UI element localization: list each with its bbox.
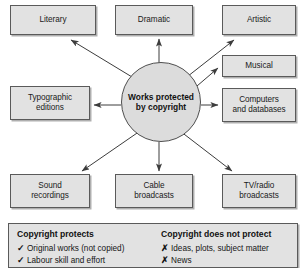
node-tv-radio-broadcasts: TV/radio broadcasts (222, 174, 296, 208)
legend-column-not-protects: Copyright does not protect ✗ Ideas, plot… (161, 229, 298, 266)
node-typographic-line-2: editions (26, 103, 74, 113)
node-literary: Literary (10, 5, 96, 35)
arrow-to-literary (71, 40, 137, 80)
node-typographic-editions: Typographic editions (10, 86, 90, 120)
node-tvradio-line-2: broadcasts (237, 191, 281, 201)
check-icon: ✓ (17, 255, 27, 266)
node-artistic: Artistic (222, 5, 296, 35)
node-tvradio-line-1: TV/radio (237, 181, 281, 191)
legend-protects-item: ✓ Original works (not copied) (17, 243, 167, 254)
legend-not-protects-item-text: News (171, 255, 298, 266)
node-dramatic-line-1: Dramatic (136, 15, 172, 25)
node-computers-and-databases: Computers and databases (222, 88, 296, 122)
node-cable-broadcasts: Cable broadcasts (115, 174, 193, 208)
node-sound-recordings: Sound recordings (10, 174, 90, 208)
node-sound-line-1: Sound (29, 181, 71, 191)
legend-protects-title: Copyright protects (17, 229, 167, 240)
center-line-1: Works (128, 92, 153, 102)
legend-panel: Copyright protects ✓ Original works (not… (8, 223, 298, 268)
legend-protects-item-text: Original works (not copied) (27, 243, 167, 254)
node-artistic-line-1: Artistic (245, 15, 273, 25)
arrow-to-tv-radio (180, 131, 232, 171)
node-cable-line-1: Cable (132, 181, 176, 191)
node-cable-line-2: broadcasts (132, 191, 176, 201)
node-musical-line-1: Musical (243, 61, 274, 71)
node-computers-line-1: Computers (230, 95, 287, 105)
node-literary-line-1: Literary (38, 15, 69, 25)
legend-column-protects: Copyright protects ✓ Original works (not… (17, 229, 167, 266)
cross-icon: ✗ (161, 243, 171, 254)
center-line-3: copyright (148, 102, 186, 112)
node-computers-line-2: and databases (230, 105, 287, 115)
legend-protects-item: ✓ Labour skill and effort (17, 255, 167, 266)
arrow-to-sound-recordings (82, 131, 140, 171)
legend-not-protects-title: Copyright does not protect (161, 229, 298, 240)
node-typographic-line-1: Typographic (26, 93, 74, 103)
center-node: Works protected by copyright (121, 62, 201, 142)
legend-not-protects-item: ✗ News (161, 255, 298, 266)
cross-icon: ✗ (161, 255, 171, 266)
check-icon: ✓ (17, 243, 27, 254)
node-musical: Musical (222, 55, 296, 77)
legend-protects-item-text: Labour skill and effort (27, 255, 167, 266)
legend-not-protects-item: ✗ Ideas, plots, subject matter (161, 243, 298, 254)
copyright-diagram-page: Works protected by copyright Literary Dr… (0, 0, 306, 268)
node-sound-line-2: recordings (29, 191, 71, 201)
node-dramatic: Dramatic (115, 5, 193, 35)
legend-not-protects-item-text: Ideas, plots, subject matter (171, 243, 298, 254)
